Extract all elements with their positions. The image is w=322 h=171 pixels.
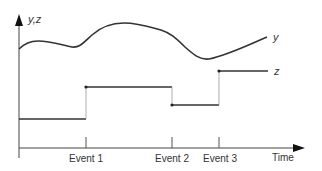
event-3-label: Event 3: [203, 153, 237, 164]
y-axis: [15, 14, 23, 158]
y-series-label: y: [272, 31, 280, 43]
z-step-signal: [19, 69, 268, 119]
z-transition-dot: [217, 69, 220, 72]
z-transition-dot: [170, 103, 173, 106]
z-transition-dot: [84, 85, 87, 88]
z-series-label: z: [273, 65, 280, 77]
event-timing-diagram: y,z Time Event 1 Event 2 Event 3 y z: [0, 0, 322, 171]
event-1-label: Event 1: [69, 153, 103, 164]
y-axis-label: y,z: [27, 13, 42, 25]
event-2-label: Event 2: [155, 153, 189, 164]
x-axis-label: Time: [272, 152, 294, 163]
y-signal-curve: [19, 23, 267, 59]
y-axis-arrow-icon: [15, 14, 23, 26]
x-axis-arrow-icon: [293, 144, 305, 152]
x-axis: [19, 144, 305, 152]
